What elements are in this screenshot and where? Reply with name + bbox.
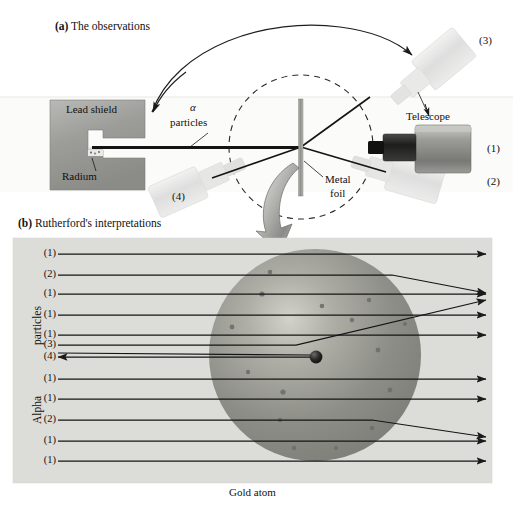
beam-row-label: (3) [30,338,56,349]
panel-b-title: Rutherford's interpretations [35,217,161,229]
beam-row-label: (1) [30,392,56,403]
figure-root: (a) The observations (b) Rutherford's in… [0,0,513,508]
marker-2-label: (2) [487,175,500,187]
beam-row-label: (1) [30,434,56,445]
marker-3-label: (3) [479,34,492,46]
panel-b-caption: (b) Rutherford's interpretations [18,217,161,230]
panel-b-graphics [0,0,513,508]
telescope-label: Telescope [406,110,450,122]
panel-b-tag: (b) [18,217,32,229]
panel-a-caption: (a) The observations [55,20,150,33]
beam-row-label: (1) [30,454,56,465]
marker-1-label: (1) [487,142,500,154]
beam-row-label: (1) [30,287,56,298]
beam-row-label: (1) [30,372,56,383]
lead-shield-label: Lead shield [66,103,117,115]
foil-label: foil [330,187,345,199]
atom-nucleus [310,351,323,364]
radium-label: Radium [62,170,97,182]
gold-atom-caption: Gold atom [229,486,276,498]
beam-row-label: (2) [30,268,56,279]
panel-a-title: The observations [71,20,150,32]
beam-row-label: (4) [30,350,56,361]
beam-row-label: (2) [30,413,56,424]
alpha-symbol-label: α [190,101,196,113]
beam-row-label: (1) [30,247,56,258]
alpha-particles-label: particles [170,116,207,128]
panel-a-tag: (a) [55,20,68,32]
metal-label: Metal [325,173,351,185]
beam-row-label: (1) [30,308,56,319]
marker-4-label: (4) [172,190,185,202]
